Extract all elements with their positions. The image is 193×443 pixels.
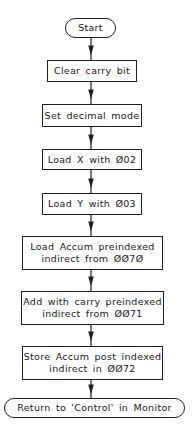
- node-text: Set decimal mode: [45, 110, 140, 122]
- node-text-line-1: Store Accum post indexed: [24, 351, 162, 363]
- load-y-step: Load Y with Ø03: [42, 193, 142, 215]
- node-text-line-1: Add with carry preindexed: [23, 296, 162, 308]
- node-text: Load X with Ø02: [48, 154, 137, 166]
- clear-carry-step: Clear carry bit: [47, 60, 137, 82]
- node-text: Start: [78, 22, 103, 34]
- load-x-step: Load X with Ø02: [42, 149, 142, 170]
- node-text-line-2: indirect from ØØ7Ø: [42, 253, 144, 265]
- node-text-line-1: Load Accum preindexed: [30, 241, 154, 253]
- add-carry-step: Add with carry preindexed indirect from …: [21, 291, 164, 325]
- load-accum-step: Load Accum preindexed indirect from ØØ7Ø: [22, 236, 163, 270]
- node-text-line-2: indirect from ØØ71: [42, 308, 142, 320]
- set-decimal-step: Set decimal mode: [42, 104, 142, 127]
- start-terminal: Start: [65, 18, 116, 38]
- node-text-line-2: indirect in ØØ72: [49, 363, 135, 375]
- store-accum-step: Store Accum post indexed indirect in ØØ7…: [22, 346, 163, 380]
- return-terminal: Return to 'Control' in Monitor: [4, 398, 185, 418]
- node-text: Clear carry bit: [54, 65, 130, 77]
- node-text: Load Y with Ø03: [48, 198, 136, 210]
- node-text: Return to 'Control' in Monitor: [17, 402, 171, 414]
